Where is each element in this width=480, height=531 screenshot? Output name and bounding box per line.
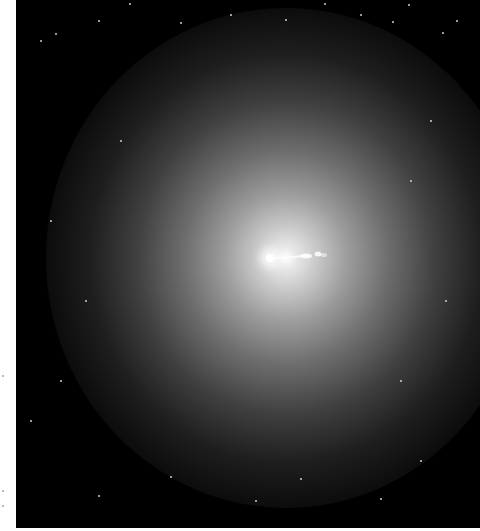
star [442,32,444,34]
star [420,460,422,462]
star [30,420,32,422]
star [40,40,42,42]
star [324,3,326,5]
star [120,140,122,142]
star [180,22,182,24]
star [98,20,100,22]
star [400,380,402,382]
star [380,498,382,500]
star [392,21,394,23]
star [408,4,410,6]
star [360,14,362,16]
star [85,300,87,302]
star [285,19,287,21]
star [430,120,432,122]
star [410,180,412,182]
star [300,478,302,480]
star [60,380,62,382]
star [456,20,458,22]
margin-mark [2,375,4,377]
star [55,33,57,35]
star [230,14,232,16]
galaxy-image [16,0,480,528]
left-margin [0,0,16,531]
margin-mark [2,505,4,507]
star [129,3,131,5]
star [255,500,257,502]
star [445,300,447,302]
galaxy-jet [272,250,332,264]
margin-mark [2,490,4,492]
star [170,476,172,478]
star [50,220,52,222]
star [98,495,100,497]
